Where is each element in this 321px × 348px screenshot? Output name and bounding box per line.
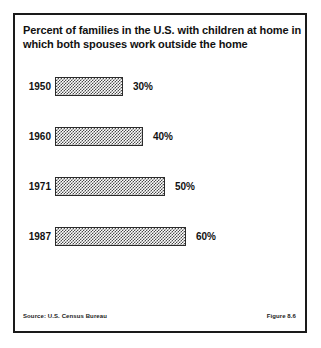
bar-shape	[55, 127, 143, 146]
bar-chart-plot-area: 1950 30% 1960 40% 1971 50% 1987 60%	[15, 77, 305, 262]
bar-value-label: 30%	[133, 77, 153, 97]
bar-shape	[55, 227, 186, 246]
bar-category-label: 1971	[15, 177, 51, 197]
bar-value-label: 60%	[196, 227, 216, 247]
bar-value-label: 50%	[175, 177, 195, 197]
bar-category-label: 1987	[15, 227, 51, 247]
bar-shape	[55, 77, 123, 96]
bar-row: 1987 60%	[15, 227, 305, 247]
bar-category-label: 1960	[15, 127, 51, 147]
figure-frame: Percent of families in the U.S. with chi…	[13, 13, 307, 333]
bar-row: 1950 30%	[15, 77, 305, 97]
bar-row: 1960 40%	[15, 127, 305, 147]
bar-row: 1971 50%	[15, 177, 305, 197]
chart-title: Percent of families in the U.S. with chi…	[23, 23, 297, 51]
source-note: Source: U.S. Census Bureau	[23, 313, 107, 319]
chart-title-line-2: which both spouses work outside the home	[23, 37, 297, 51]
figure-number-label: Figure 8.6	[267, 313, 296, 319]
bar-shape	[55, 177, 165, 196]
bar-category-label: 1950	[15, 77, 51, 97]
chart-title-line-1: Percent of families in the U.S. with chi…	[23, 23, 297, 37]
bar-value-label: 40%	[153, 127, 173, 147]
